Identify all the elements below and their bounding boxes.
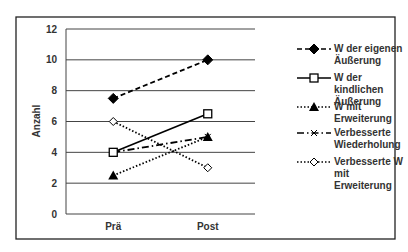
legend-item: VerbesserteWiederholung xyxy=(296,127,406,151)
y-tick-label: 12 xyxy=(46,24,58,35)
legend-symbol xyxy=(296,156,334,168)
legend-label-line: W der eigenen xyxy=(334,43,406,55)
legend-symbol xyxy=(296,101,334,113)
legend-label: VerbesserteWiederholung xyxy=(334,127,406,151)
legend-label-line: Verbesserte xyxy=(334,127,406,139)
legend-symbol xyxy=(296,72,334,84)
legend-marker xyxy=(310,158,318,166)
y-tick-label: 0 xyxy=(51,209,57,220)
y-tick-label: 2 xyxy=(51,178,57,189)
y-tick-label: 4 xyxy=(51,147,57,158)
legend-label: Verbesserte W mitErweiterung xyxy=(334,156,406,192)
legend-marker xyxy=(309,102,319,111)
data-point xyxy=(204,110,212,118)
legend-label: W mit Erweiterung xyxy=(334,101,406,125)
legend-item: W mit Erweiterung xyxy=(296,101,406,125)
legend-marker xyxy=(310,74,318,82)
x-tick-label: Post xyxy=(197,221,219,232)
legend-item: Verbesserte W mitErweiterung xyxy=(296,156,406,192)
chart: 024681012PräPost Anzahl xyxy=(0,0,408,252)
x-tick-label: Prä xyxy=(105,221,122,232)
legend-label: W der eigenenÄußerung xyxy=(334,43,406,67)
y-tick-label: 10 xyxy=(46,54,58,65)
legend-label-line: W der kindlichen xyxy=(334,72,406,96)
legend-label-line: W mit Erweiterung xyxy=(334,101,406,125)
legend-label-line: Äußerung xyxy=(334,55,406,67)
legend-item: W der eigenenÄußerung xyxy=(296,43,406,67)
y-tick-label: 6 xyxy=(51,116,57,127)
y-axis-label: Anzahl xyxy=(31,104,42,137)
legend-label-line: Verbesserte W mit xyxy=(334,156,406,180)
legend-marker xyxy=(309,44,319,54)
legend-label-line: Erweiterung xyxy=(334,180,406,192)
data-point xyxy=(109,148,117,156)
legend-symbol xyxy=(296,43,334,55)
legend-symbol xyxy=(296,127,334,139)
y-tick-label: 8 xyxy=(51,85,57,96)
legend-label-line: Wiederholung xyxy=(334,139,406,151)
